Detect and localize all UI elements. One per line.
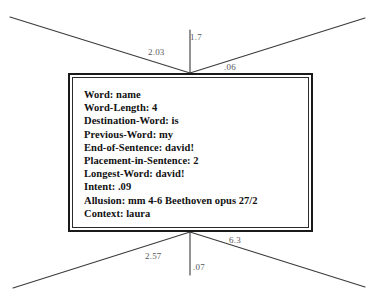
attribute-row-allusion: Allusion: mm 4-6 Beethoven opus 27/2 [84, 194, 308, 207]
attribute-row-context: Context: laura [84, 207, 308, 220]
edge-line-bottom-right [190, 232, 365, 287]
attribute-row-word: Word: name [84, 88, 308, 101]
attribute-node-box: Word: name Word-Length: 4 Destination-Wo… [68, 73, 313, 232]
attribute-node-inner-frame: Word: name Word-Length: 4 Destination-Wo… [72, 77, 309, 228]
attribute-row-longest-word: Longest-Word: david! [84, 167, 308, 180]
edge-line-top-right [190, 18, 365, 73]
attribute-row-end-of-sentence: End-of-Sentence: david! [84, 141, 308, 154]
edge-weight-bottom-right: 6.3 [229, 235, 241, 245]
attribute-list: Word: name Word-Length: 4 Destination-Wo… [84, 88, 308, 220]
edge-weight-bottom-center: .07 [193, 262, 205, 272]
diagram-canvas: 2.03 1.7 .06 2.57 .07 6.3 Word: name Wor… [0, 0, 378, 299]
edge-weight-top-center: 1.7 [190, 32, 202, 42]
edge-line-bottom-left [13, 232, 190, 288]
attribute-row-previous-word: Previous-Word: my [84, 128, 308, 141]
attribute-row-intent: Intent: .09 [84, 180, 308, 193]
edge-weight-bottom-left: 2.57 [145, 251, 162, 261]
attribute-row-destination-word: Destination-Word: is [84, 114, 308, 127]
edge-weight-top-left: 2.03 [148, 47, 165, 57]
attribute-row-word-length: Word-Length: 4 [84, 101, 308, 114]
edge-weight-top-right: .06 [224, 62, 236, 72]
edge-line-top-left [10, 17, 190, 73]
attribute-row-placement-in-sentence: Placement-in-Sentence: 2 [84, 154, 308, 167]
